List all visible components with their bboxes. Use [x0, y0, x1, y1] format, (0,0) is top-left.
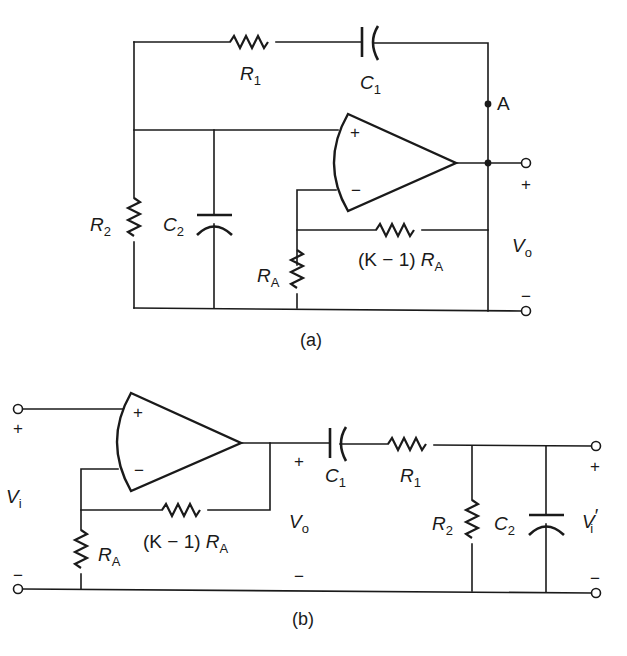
label-output-a-minus: −	[521, 287, 531, 306]
label-ra-b: RA	[98, 544, 121, 569]
label-mid-b-minus: −	[294, 567, 304, 586]
circuit-figure: + − R1 C1 R2 C2 RA (K − 1) RA A + Vo − (…	[0, 0, 627, 656]
ra-resistor-b-icon	[75, 530, 87, 568]
r2-resistor-icon	[128, 198, 140, 236]
label-input-b-plus: +	[13, 419, 23, 438]
r1-resistor-b-icon	[388, 438, 426, 450]
r1-resistor-icon	[230, 36, 268, 48]
feedback-resistor-b-icon	[162, 504, 200, 516]
label-vo-a: Vo	[512, 235, 532, 260]
label-vo-b: Vo	[289, 511, 309, 536]
label-vi-b: Vi	[6, 486, 22, 511]
label-r2-a: R2	[90, 214, 111, 239]
label-output-b-plus: +	[590, 457, 600, 476]
input-b-minus-terminal	[14, 585, 23, 594]
label-feedback-a: (K − 1) RA	[358, 249, 444, 274]
output-a-plus-terminal	[522, 159, 531, 168]
label-mid-b-plus: +	[294, 452, 304, 471]
label-c1-b: C1	[325, 465, 346, 490]
label-r2-b: R2	[432, 513, 453, 538]
label-input-b-minus: −	[13, 566, 23, 585]
output-a-minus-terminal	[522, 307, 531, 316]
label-feedback-b: (K − 1) RA	[143, 531, 229, 556]
opamp-a-minus: −	[351, 181, 361, 200]
label-output-b-minus: −	[590, 569, 600, 588]
opamp-a-plus: +	[350, 123, 360, 142]
opamp-b-minus: −	[134, 461, 144, 480]
panel-b-circuit: + −	[14, 393, 601, 598]
label-r1-b: R1	[400, 465, 421, 490]
output-b-plus-terminal	[592, 442, 601, 451]
label-output-a-plus: +	[521, 175, 531, 194]
panel-a-circuit: + −	[128, 26, 531, 316]
input-b-plus-terminal	[14, 405, 23, 414]
label-r1-a: R1	[240, 63, 261, 88]
label-c2-a: C2	[163, 214, 184, 239]
opamp-b-plus: +	[133, 403, 143, 422]
label-node-a: A	[497, 93, 510, 114]
caption-b: (b)	[292, 609, 314, 629]
label-ra-a: RA	[257, 265, 280, 290]
caption-a: (a)	[300, 330, 322, 350]
feedback-resistor-a-icon	[376, 224, 414, 236]
label-c1-a: C1	[360, 72, 381, 97]
label-vi-prime-b: V′i	[582, 505, 599, 536]
r2-resistor-b-icon	[466, 500, 478, 538]
node-a-dot	[485, 101, 492, 108]
output-b-minus-terminal	[592, 589, 601, 598]
label-c2-b: C2	[494, 513, 515, 538]
